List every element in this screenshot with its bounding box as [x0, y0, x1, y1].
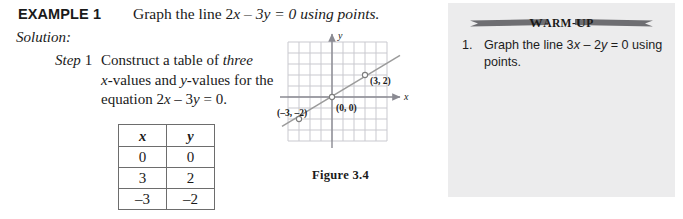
example-block: EXAMPLE 1 Graph the line 2x – 3y = 0 usi…	[0, 0, 448, 219]
example-prompt-equation: x – 3y = 0 using points.	[233, 5, 379, 22]
warmup-item-text: Graph the line 3x – 2y = 0 using points.	[484, 37, 667, 70]
graph-figure: y x (0, 0) (3, 2) (–3, –2) Figure 3.4	[276, 28, 444, 196]
step-label: Step1	[55, 52, 92, 69]
step-number: 1	[81, 52, 93, 68]
table-row: 0 0	[119, 147, 215, 168]
x-axis-label: x	[403, 91, 409, 102]
step-body-line-3: equation 2x – 3y = 0.	[101, 90, 297, 110]
example-prompt-text: Graph the line 2	[133, 5, 233, 22]
step-body-line-1: Construct a table of three	[101, 51, 297, 71]
point-label-3-2: (3, 2)	[370, 76, 391, 87]
figure-caption: Figure 3.4	[312, 168, 369, 183]
table-cell-x: –3	[119, 189, 167, 210]
solution-label: Solution:	[16, 29, 71, 46]
table-cell-x: 3	[119, 168, 167, 189]
warmup-item-1: 1. Graph the line 3x – 2y = 0 using poin…	[462, 37, 667, 70]
table-cell-y: 0	[167, 147, 215, 168]
point-label-neg3-neg2: (–3, –2)	[277, 108, 307, 119]
grid-lines	[288, 42, 387, 141]
table-row: 3 2	[119, 168, 215, 189]
table-header-y: y	[167, 125, 215, 147]
warmup-title-u: U	[576, 15, 586, 30]
warmup-panel: WARM-UP 1. Graph the line 3x – 2y = 0 us…	[448, 3, 675, 197]
warmup-item-number: 1.	[462, 37, 484, 70]
step-body-line-2: x-values and y-values for the	[101, 71, 297, 91]
table-cell-y: –2	[167, 189, 215, 210]
warmup-title-p: P	[586, 17, 593, 29]
table-header-row: x y	[119, 125, 215, 147]
example-heading: EXAMPLE 1	[18, 6, 101, 22]
warmup-title: WARM-UP	[448, 15, 675, 31]
warmup-title-w: W	[529, 15, 543, 30]
table-cell-y: 2	[167, 168, 215, 189]
point-label-origin: (0, 0)	[336, 103, 357, 114]
data-point-3-2	[362, 72, 367, 77]
y-axis-label: y	[337, 30, 343, 41]
step-body: Construct a table of three x-values and …	[101, 51, 297, 110]
warmup-title-arm: ARM	[543, 17, 572, 29]
step-word: Step	[55, 52, 81, 68]
data-point-origin	[329, 94, 334, 99]
table-cell-x: 0	[119, 147, 167, 168]
example-prompt: Graph the line 2x – 3y = 0 using points.	[133, 5, 379, 23]
emphasis-three: three	[223, 52, 253, 68]
table-row: –3 –2	[119, 189, 215, 210]
values-table: x y 0 0 3 2 –3 –2	[118, 124, 215, 210]
table-header-x: x	[119, 125, 167, 147]
